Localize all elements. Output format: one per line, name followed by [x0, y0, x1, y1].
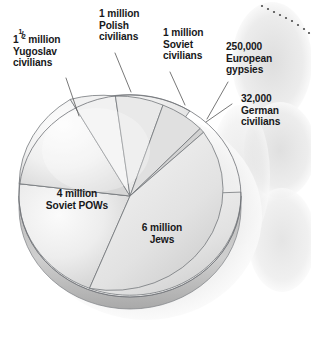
label-soviet-pows: 4 million Soviet POWs — [33, 188, 121, 211]
label-gypsies-line2: European — [226, 53, 272, 65]
label-yugoslav-civilians: 11/2 million Yugoslav civilians — [13, 32, 60, 69]
label-german-line1: 32,000 — [241, 93, 280, 105]
pie-chart-figure: 11/2 million Yugoslav civilians 1 millio… — [0, 0, 311, 340]
leader-line-soviet-civilians — [170, 72, 185, 105]
leader-line-gypsies — [207, 82, 228, 119]
label-jews: 6 million Jews — [120, 222, 204, 245]
label-jews-line1: 6 million — [120, 222, 204, 234]
label-german-civilians: 32,000 German civilians — [241, 93, 280, 128]
label-soviet-civ-line1: 1 million — [163, 27, 203, 39]
pie-highlight — [42, 108, 150, 192]
label-gypsies-line1: 250,000 — [226, 41, 272, 53]
label-yugoslav-unit: million — [28, 34, 60, 45]
label-pows-line1: 4 million — [33, 188, 121, 200]
label-polish-line3: civilians — [99, 31, 139, 43]
fraction-one-half: 1/2 — [19, 32, 26, 43]
label-yugoslav-line2: Yugoslav — [13, 46, 60, 58]
label-soviet-civ-line3: civilians — [163, 50, 203, 62]
label-gypsies-line3: gypsies — [226, 64, 272, 76]
label-polish-line1: 1 million — [99, 8, 139, 20]
label-yugoslav-line1: 11/2 million — [13, 32, 60, 46]
label-soviet-civilians: 1 million Soviet civilians — [163, 27, 203, 62]
label-german-line3: civilians — [241, 116, 280, 128]
label-german-line2: German — [241, 105, 280, 117]
label-soviet-civ-line2: Soviet — [163, 39, 203, 51]
label-pows-line2: Soviet POWs — [33, 200, 121, 212]
label-polish-civilians: 1 million Polish civilians — [99, 8, 139, 43]
label-jews-line2: Jews — [120, 234, 204, 246]
leader-line-polish — [115, 53, 131, 92]
label-yugoslav-line3: civilians — [13, 57, 60, 69]
label-european-gypsies: 250,000 European gypsies — [226, 41, 272, 76]
label-polish-line2: Polish — [99, 20, 139, 32]
